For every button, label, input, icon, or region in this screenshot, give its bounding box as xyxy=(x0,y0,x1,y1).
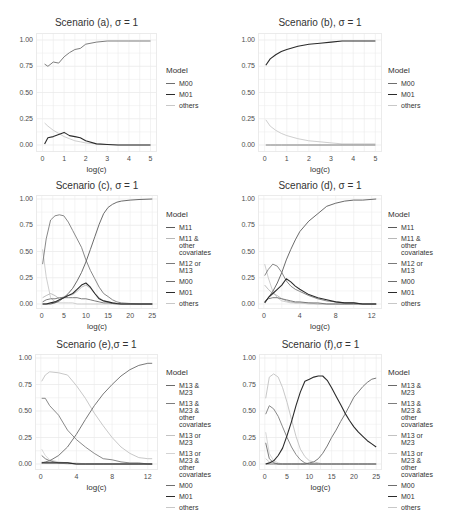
x-tick-label: 25 xyxy=(368,473,384,480)
y-tick-label: 0.25 xyxy=(232,434,256,441)
legend-item: M13 or M23 xyxy=(388,432,433,446)
legend-label: M13 & M23 & other covariates xyxy=(401,400,433,428)
legend-item: others xyxy=(388,504,433,511)
y-tick-label: 0.50 xyxy=(232,407,256,414)
legend-line-key-icon xyxy=(388,507,397,508)
x-tick-label: 15 xyxy=(324,473,340,480)
legend-item: M13 & M23 xyxy=(388,382,433,396)
legend: ModelM13 & M23M13 & M23 & other covariat… xyxy=(388,368,433,514)
x-tick-label: 20 xyxy=(346,473,362,480)
legend-title: Model xyxy=(388,368,433,377)
legend-label: M13 or M23 xyxy=(401,432,433,446)
y-tick-label: 0.00 xyxy=(232,460,256,467)
x-axis-label: log(c) xyxy=(291,483,351,492)
x-tick-label: 10 xyxy=(301,473,317,480)
x-tick-label: 0 xyxy=(257,473,273,480)
legend-line-key-icon xyxy=(388,403,397,404)
legend-line-key-icon xyxy=(388,435,397,436)
legend-line-key-icon xyxy=(388,496,397,497)
legend-line-key-icon xyxy=(388,485,397,486)
legend-line-key-icon xyxy=(388,453,397,454)
series-line-m00 xyxy=(266,443,377,464)
legend-item: M00 xyxy=(388,482,433,489)
y-tick-label: 0.75 xyxy=(232,381,256,388)
legend-item: M13 & M23 & other covariates xyxy=(388,400,433,428)
series-line-m13-m23 xyxy=(266,378,377,464)
legend-label: M01 xyxy=(401,493,415,500)
legend-label: others xyxy=(401,504,420,511)
legend-line-key-icon xyxy=(388,385,397,386)
legend-label: M13 or M23 & other covariates xyxy=(401,450,433,478)
legend-label: M00 xyxy=(401,482,415,489)
series-line-m13-or-m23 xyxy=(266,374,377,464)
y-tick-label: 1.00 xyxy=(232,354,256,361)
legend-line-key-icon xyxy=(166,507,175,508)
legend-item: M13 or M23 & other covariates xyxy=(388,450,433,478)
x-tick-label: 5 xyxy=(279,473,295,480)
legend-item: M01 xyxy=(388,493,433,500)
legend-label: M13 & M23 xyxy=(401,382,433,396)
